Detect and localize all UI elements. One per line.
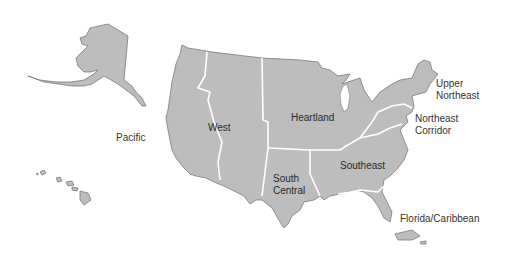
northeast-corridor-line2: Corridor	[415, 125, 458, 137]
hawaii-shape	[36, 170, 91, 205]
region-label-northeast-corridor: Northeast Corridor	[415, 113, 458, 137]
region-label-upper-northeast: Upper Northeast	[436, 78, 479, 102]
south-central-line1: South	[273, 173, 305, 185]
region-label-west: West	[208, 122, 231, 134]
upper-northeast-line1: Upper	[436, 78, 479, 90]
northeast-corridor-line1: Northeast	[415, 113, 458, 125]
puerto-rico-shape	[395, 230, 420, 240]
region-label-pacific: Pacific	[116, 132, 145, 144]
region-label-florida-caribbean: Florida/Caribbean	[400, 213, 480, 225]
region-label-heartland: Heartland	[291, 112, 334, 124]
contiguous-us-shape	[166, 45, 438, 228]
region-label-south-central: South Central	[273, 173, 305, 197]
south-central-line2: Central	[273, 185, 305, 197]
region-label-southeast: Southeast	[340, 160, 385, 172]
alaska-shape	[28, 24, 146, 106]
upper-northeast-line2: Northeast	[436, 90, 479, 102]
